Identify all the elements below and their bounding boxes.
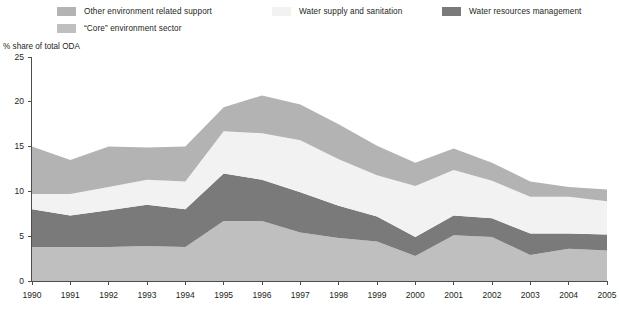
y-axis-caption: % share of total ODA xyxy=(3,42,80,51)
legend-item-other-environment-related-support: Other environment related support xyxy=(57,7,212,16)
legend-swatch-water-supply-and-sanitation xyxy=(272,7,291,16)
chart-footer: StatLink http://dx.doi.org/10.1787/26247… xyxy=(0,298,619,316)
plot-area xyxy=(0,52,619,287)
legend-swatch-water-resources-management xyxy=(442,7,461,16)
y-axis-tick-label-20: 20 xyxy=(2,96,24,106)
y-axis-tick-label-15: 15 xyxy=(2,141,24,151)
y-axis-tick-label-25: 25 xyxy=(2,52,24,62)
stacked-area-svg xyxy=(0,52,619,287)
legend-label-water-supply-and-sanitation: Water supply and sanitation xyxy=(299,7,402,16)
legend-item-core-environment-sector: “Core” environment sector xyxy=(57,24,182,33)
legend-label-water-resources-management: Water resources management xyxy=(469,7,581,16)
chart-figure: Other environment related support “Core”… xyxy=(0,0,619,316)
legend-label-core-environment-sector: “Core” environment sector xyxy=(84,24,182,33)
chart-legend: Other environment related support “Core”… xyxy=(0,0,619,40)
legend-swatch-other-environment-related-support xyxy=(57,7,76,16)
y-axis-tick-label-10: 10 xyxy=(2,186,24,196)
legend-item-water-resources-management: Water resources management xyxy=(442,7,581,16)
y-axis-tick-label-5: 5 xyxy=(2,231,24,241)
legend-swatch-core-environment-sector xyxy=(57,24,76,33)
y-axis-tick-label-0: 0 xyxy=(2,276,24,286)
legend-label-other-environment-related-support: Other environment related support xyxy=(84,7,212,16)
legend-item-water-supply-and-sanitation: Water supply and sanitation xyxy=(272,7,402,16)
